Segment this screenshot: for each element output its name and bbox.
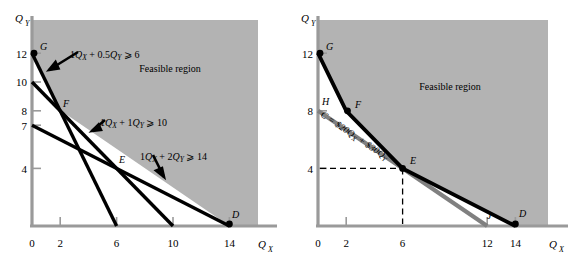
point-label-F-right: F bbox=[354, 99, 362, 110]
dashed-guides-right bbox=[320, 168, 403, 224]
y-axis-title-main-left: Q bbox=[15, 12, 23, 24]
y-axis-title-sub-right: Y bbox=[311, 19, 317, 28]
point-label-G-left: G bbox=[40, 41, 47, 52]
figure-container: Q Y Q X 12 10 8 7 4 0 2 6 10 14 bbox=[0, 0, 581, 255]
x-tick-label: 6 bbox=[400, 237, 406, 249]
x-axis-title-main-right: Q bbox=[549, 238, 557, 250]
point-label-G-right: G bbox=[326, 41, 333, 52]
y-axis-title-right: Q Y bbox=[301, 12, 317, 28]
x-axis-title-main-left: Q bbox=[258, 238, 266, 250]
x-tick-label: 0 bbox=[315, 237, 321, 249]
c1-part-b: + 0.5 bbox=[87, 49, 110, 60]
point-label-F-left: F bbox=[62, 98, 70, 109]
c3-part-b: + 2 bbox=[157, 151, 173, 162]
left-chart-svg: Q Y Q X 12 10 8 7 4 0 2 6 10 14 bbox=[0, 0, 290, 255]
x-tick-label: 14 bbox=[510, 237, 522, 249]
y-tick-label: 7 bbox=[22, 120, 28, 132]
feasible-region-shading-right bbox=[318, 20, 548, 226]
y-tick-label: 10 bbox=[16, 76, 28, 88]
feasible-region-label-left: Feasible region bbox=[139, 63, 200, 74]
x-axis-title-right: Q X bbox=[549, 238, 565, 254]
c1-part-c: ⩾ 6 bbox=[121, 49, 139, 60]
c3-part-c: ⩾ 14 bbox=[184, 151, 207, 162]
point-label-E-right: E bbox=[409, 155, 416, 166]
x-tick-label: 14 bbox=[224, 237, 236, 249]
point-label-H-right: H bbox=[321, 96, 330, 107]
point-label-D-left: D bbox=[231, 209, 240, 220]
x-axis-title-sub-right: X bbox=[558, 245, 565, 254]
y-tick-label: 8 bbox=[308, 105, 314, 117]
x-tick-label: 12 bbox=[482, 237, 493, 249]
point-D-marker-right bbox=[512, 221, 519, 228]
x-tick-label: 0 bbox=[29, 237, 35, 249]
y-tick-labels-right: 12 8 4 bbox=[302, 48, 314, 175]
chart-panel-left: Q Y Q X 12 10 8 7 4 0 2 6 10 14 bbox=[0, 0, 290, 255]
point-G-marker-right bbox=[317, 50, 324, 57]
x-tick-label: 6 bbox=[114, 237, 120, 249]
point-G-marker-left bbox=[31, 50, 38, 57]
x-tick-labels-right: 0 2 6 12 14 bbox=[315, 237, 521, 249]
x-tick-label: 2 bbox=[343, 237, 349, 249]
y-axis-title-main-right: Q bbox=[301, 12, 309, 24]
x-tick-label: 2 bbox=[57, 237, 63, 249]
y-axis-title-sub-left: Y bbox=[25, 19, 31, 28]
chart-panel-right: Q Y Q X 12 8 4 0 2 6 12 14 G bbox=[290, 0, 581, 255]
point-D-marker-left bbox=[226, 221, 233, 228]
y-tick-label: 12 bbox=[302, 48, 313, 60]
x-axis-title-left: Q X bbox=[258, 238, 274, 254]
x-tick-labels-left: 0 2 6 10 14 bbox=[29, 237, 235, 249]
point-label-E-left: E bbox=[118, 154, 125, 165]
right-chart-svg: Q Y Q X 12 8 4 0 2 6 12 14 G bbox=[290, 0, 581, 255]
c2-part-c: ⩾ 10 bbox=[144, 117, 167, 128]
y-tick-label: 4 bbox=[308, 163, 314, 175]
x-axis-title-sub-left: X bbox=[267, 245, 274, 254]
feasible-region-label-right: Feasible region bbox=[419, 81, 480, 92]
x-tick-label: 10 bbox=[168, 237, 180, 249]
y-tick-label: 12 bbox=[16, 48, 27, 60]
y-tick-label: 8 bbox=[22, 105, 28, 117]
y-axis-title-left: Q Y bbox=[15, 12, 31, 28]
point-E-marker-right bbox=[399, 165, 406, 172]
point-F-marker-right bbox=[344, 107, 351, 114]
point-label-D-right: D bbox=[518, 208, 527, 219]
y-tick-label: 4 bbox=[22, 163, 28, 175]
y-tick-labels-left: 12 10 8 7 4 bbox=[16, 48, 28, 175]
c2-part-b: + 1 bbox=[117, 117, 133, 128]
point-label-J-right: J bbox=[487, 210, 492, 221]
